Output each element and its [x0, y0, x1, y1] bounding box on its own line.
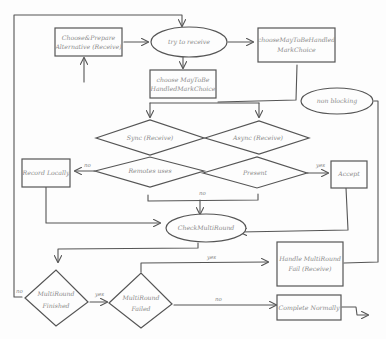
node-label: Failed: [130, 305, 150, 312]
edge-label-present-yes: yes: [315, 162, 325, 169]
node-label: Record Locally: [22, 169, 70, 177]
node-choose-prepare[interactable]: Choose&Prepare Alternative (Receive): [54, 28, 122, 56]
node-label: Complete Normally: [278, 304, 340, 312]
node-non-blocking[interactable]: non blocking: [301, 88, 373, 114]
node-label: HandledMarkChoice: [150, 85, 216, 92]
node-label: Handle MultiRound: [278, 255, 341, 262]
node-present[interactable]: Present: [203, 157, 307, 188]
edge-label-failed-no: no: [215, 296, 223, 302]
edge-label-remote-no: no: [84, 162, 92, 168]
node-label: MarkChoice: [276, 46, 316, 53]
edge-failed-yes: [141, 262, 268, 272]
flowchart-diagram: Choose&Prepare Alternative (Receive) try…: [0, 0, 386, 339]
edge-label-finished-no: no: [16, 288, 24, 294]
node-label: Finished: [41, 302, 69, 309]
node-choose-may-unhandled[interactable]: chooseMayToBeHandled MarkChoice: [258, 28, 336, 62]
node-label: non blocking: [317, 97, 358, 105]
node-record-locally[interactable]: Record Locally: [22, 159, 70, 187]
edge-label-finished-yes: yes: [94, 291, 104, 298]
node-label: Accept: [337, 170, 360, 178]
node-choose-may-to-be[interactable]: choose MayToBe HandledMarkChoice: [150, 70, 216, 98]
edge-check-to-finished: [58, 243, 198, 262]
node-label: CheckMultiRound: [178, 224, 235, 231]
node-handle-multiround-fail[interactable]: Handle MultiRound Fail (Receive): [277, 242, 343, 286]
node-label: Present: [242, 169, 268, 176]
node-label: Fail (Receive): [288, 265, 332, 272]
node-multiround-finished[interactable]: MultiRound Finished: [25, 270, 88, 326]
flowchart-canvas: Choose&Prepare Alternative (Receive) try…: [0, 0, 386, 339]
node-label: chooseMayToBeHandled: [258, 36, 336, 44]
node-accept[interactable]: Accept: [331, 161, 367, 188]
node-try-to-receive[interactable]: try to receive: [151, 27, 227, 57]
node-label: MultiRound: [36, 290, 74, 297]
node-check-multiround[interactable]: CheckMultiRound: [166, 214, 246, 242]
node-multiround-failed[interactable]: MultiRound Failed: [109, 273, 172, 328]
node-complete-normally[interactable]: Complete Normally: [277, 295, 341, 320]
node-label: Choose&Prepare: [62, 34, 116, 42]
edge-record-to-check: [46, 187, 160, 223]
node-label: try to receive: [168, 38, 210, 46]
edge-complete-exit: [342, 307, 368, 315]
node-async-receive[interactable]: Async (Receive): [205, 121, 309, 154]
edge-accept-to-check: [240, 188, 348, 232]
edge-label-merge-no: no: [199, 190, 207, 196]
edge-unhandled-join: [218, 65, 297, 102]
node-label: Sync (Receive): [127, 134, 174, 142]
node-remote-uses[interactable]: Remotes uses: [95, 157, 204, 187]
node-label: Alternative (Receive): [54, 43, 122, 50]
node-sync-receive[interactable]: Sync (Receive): [96, 120, 204, 155]
node-label: MultiRound: [121, 294, 159, 301]
node-label: choose MayToBe: [157, 76, 210, 84]
edge-label-failed-yes: yes: [206, 254, 216, 261]
node-label: Async (Receive): [232, 134, 284, 142]
edge-finished-no-loop: [14, 15, 182, 297]
node-label: Remotes uses: [127, 167, 171, 174]
